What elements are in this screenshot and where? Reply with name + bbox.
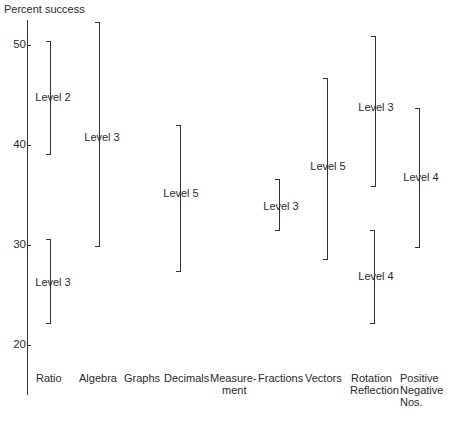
category-label-vectors: Vectors xyxy=(305,372,342,384)
y-tick-label: 30 xyxy=(4,238,26,250)
y-tick-label: 50 xyxy=(4,38,26,50)
category-label-rotation-1: Rotation xyxy=(351,372,392,384)
category-label-measurement-1: Measure- xyxy=(210,372,256,384)
category-label-algebra: Algebra xyxy=(79,372,117,384)
level-label: Level 5 xyxy=(310,160,345,172)
level-label: Level 2 xyxy=(35,91,70,103)
y-tick xyxy=(27,145,31,146)
level-label: Level 3 xyxy=(35,276,70,288)
y-axis-label: Percent success xyxy=(4,3,85,15)
y-tick-label: 20 xyxy=(4,338,26,350)
y-tick xyxy=(27,45,31,46)
level-label: Level 4 xyxy=(358,270,393,282)
category-label-positive-3: Nos. xyxy=(400,396,423,408)
category-label-fractions: Fractions xyxy=(258,372,303,384)
category-label-positive-1: Positive xyxy=(400,372,439,384)
category-label-rotation-2: Reflection xyxy=(350,384,399,396)
y-tick xyxy=(27,245,31,246)
chart: Percent success 50 40 30 20 Level 2 Leve… xyxy=(0,0,451,421)
category-label-decimals: Decimals xyxy=(164,372,209,384)
level-label: Level 3 xyxy=(358,101,393,113)
level-label: Level 4 xyxy=(403,171,438,183)
category-label-measurement-2: ment xyxy=(222,384,246,396)
category-label-positive-2: Negative xyxy=(400,384,443,396)
y-axis-line xyxy=(27,20,28,395)
y-tick xyxy=(27,345,31,346)
level-label: Level 3 xyxy=(84,131,119,143)
category-label-ratio: Ratio xyxy=(36,372,62,384)
y-tick-label: 40 xyxy=(4,138,26,150)
level-label: Level 5 xyxy=(163,187,198,199)
level-label: Level 3 xyxy=(263,200,298,212)
category-label-graphs: Graphs xyxy=(124,372,160,384)
